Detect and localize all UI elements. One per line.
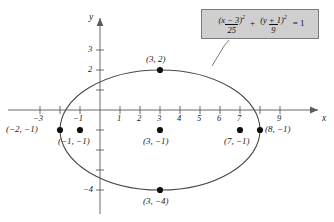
point-label-7--1: (7, −1) xyxy=(224,136,250,146)
point-marker-7--1 xyxy=(237,127,243,133)
fraction-y-denominator: 9 xyxy=(269,24,277,34)
callout-leader-line xyxy=(212,40,229,66)
point-marker--1--1 xyxy=(77,127,83,133)
equation-expression: (x − 3)2 25 + (y + 1)2 9 = 1 xyxy=(215,14,304,35)
equation-equals-one: = 1 xyxy=(293,19,305,28)
x-tick-label-4: 4 xyxy=(177,113,181,123)
plus-operator: + xyxy=(250,19,255,28)
figure-canvas: y x −3 −1 1 2 3 4 5 6 7 9 3 2 −4 (−2, −1… xyxy=(0,0,334,222)
x-numerator-exponent: 2 xyxy=(242,14,245,20)
x-tick-label-9: 9 xyxy=(277,113,281,123)
x-tick-label-7: 7 xyxy=(237,113,241,123)
point-marker-8--1 xyxy=(257,127,263,133)
point-label-3--1: (3, −1) xyxy=(143,136,169,146)
fraction-x-term: (x − 3)2 25 xyxy=(216,14,247,35)
y-numerator-exponent: 2 xyxy=(284,14,287,20)
y-numerator-text: (y + 1) xyxy=(260,14,284,24)
x-tick-label-5: 5 xyxy=(197,113,201,123)
fraction-y-numerator: (y + 1)2 xyxy=(258,14,289,25)
point-marker-3--4 xyxy=(157,187,163,193)
x-axis-label: x xyxy=(322,113,326,123)
point-label-8--1: (8, −1) xyxy=(265,124,291,134)
plotted-points xyxy=(57,67,263,193)
x-tick-label--1: −1 xyxy=(73,113,83,123)
x-axis-arrow xyxy=(310,107,318,114)
y-axis-label: y xyxy=(89,12,93,22)
point-label-3--4: (3, −4) xyxy=(143,196,169,206)
fraction-x-numerator: (x − 3)2 xyxy=(216,14,247,25)
point-label--1--1: (−1, −1) xyxy=(58,136,90,146)
fraction-x-denominator: 25 xyxy=(225,24,238,34)
point-marker-3--1 xyxy=(157,127,163,133)
y-tick-label-2: 2 xyxy=(88,64,92,74)
point-marker-3-2 xyxy=(157,67,163,73)
x-numerator-text: (x − 3) xyxy=(218,14,242,24)
y-tick-label--4: −4 xyxy=(83,184,93,194)
point-label--2--1: (−2, −1) xyxy=(6,124,38,134)
x-tick-label-1: 1 xyxy=(117,113,121,123)
point-label-3-2: (3, 2) xyxy=(146,54,166,64)
fraction-y-term: (y + 1)2 9 xyxy=(258,14,289,35)
x-tick-label-2: 2 xyxy=(137,113,141,123)
y-axis-arrow xyxy=(97,18,104,26)
x-tick-label-6: 6 xyxy=(217,113,221,123)
y-tick-label-3: 3 xyxy=(88,44,92,54)
y-axis xyxy=(96,18,104,214)
point-marker--2--1 xyxy=(57,127,63,133)
equation-callout-box: (x − 3)2 25 + (y + 1)2 9 = 1 xyxy=(201,9,319,39)
x-axis xyxy=(8,106,318,114)
x-tick-label-3: 3 xyxy=(157,113,161,123)
x-tick-label--3: −3 xyxy=(33,113,43,123)
